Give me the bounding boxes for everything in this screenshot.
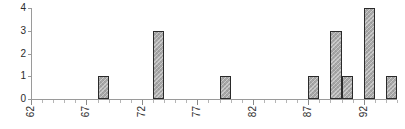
x-tick-label: 72 [137,106,147,117]
x-tick-mark-minor [242,100,243,103]
x-tick-mark-minor [231,100,232,103]
x-tick-mark-minor [109,100,110,103]
x-tick-mark-minor [42,100,43,103]
histogram-bar [220,76,231,99]
x-tick-mark-major [197,100,198,105]
histogram-bar [386,76,397,99]
x-tick-mark-minor [175,100,176,103]
x-tick-mark-minor [220,100,221,103]
x-tick-mark-minor [353,100,354,103]
x-tick-label: 87 [303,106,313,117]
x-tick-mark-minor [297,100,298,103]
x-tick-label: 92 [359,106,369,117]
x-tick-mark-minor [98,100,99,103]
plot-area [31,8,397,99]
x-tick-mark-minor [153,100,154,103]
x-tick-label: 67 [81,106,91,117]
y-tick-label: 2 [14,49,26,59]
x-tick-mark-major [253,100,254,105]
x-tick-mark-minor [319,100,320,103]
x-tick-mark-minor [131,100,132,103]
histogram-bar [342,76,353,99]
x-tick-mark-minor [64,100,65,103]
x-tick-mark-minor [330,100,331,103]
y-tick-label: 4 [14,3,26,13]
x-tick-mark-minor [120,100,121,103]
histogram-bar [364,8,375,99]
histogram-chart: 01234 62677277828792 [0,0,405,129]
x-tick-mark-major [86,100,87,105]
x-tick-mark-minor [386,100,387,103]
y-tick-label: 3 [14,26,26,36]
x-tick-mark-minor [264,100,265,103]
x-tick-mark-minor [397,100,398,103]
x-tick-label: 62 [26,106,36,117]
histogram-bar [308,76,319,99]
histogram-bar [98,76,109,99]
x-tick-mark-major [142,100,143,105]
x-tick-mark-major [31,100,32,105]
y-tick-label: 0 [14,94,26,104]
x-tick-mark-major [308,100,309,105]
x-tick-label: 82 [248,106,258,117]
x-tick-mark-minor [286,100,287,103]
x-tick-mark-minor [275,100,276,103]
x-tick-mark-minor [208,100,209,103]
x-tick-mark-minor [164,100,165,103]
x-tick-mark-minor [75,100,76,103]
x-tick-mark-major [364,100,365,105]
x-tick-mark-minor [342,100,343,103]
histogram-bar [330,31,341,99]
x-tick-mark-minor [53,100,54,103]
y-tick-label: 1 [14,71,26,81]
x-tick-mark-minor [375,100,376,103]
histogram-bar [153,31,164,99]
x-tick-mark-minor [186,100,187,103]
x-tick-label: 77 [192,106,202,117]
